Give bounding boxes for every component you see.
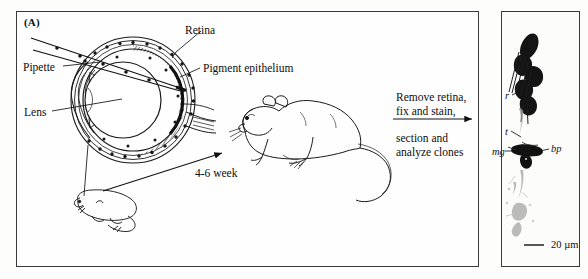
micrograph-label-bipolar-cell: bp [551,143,562,154]
scale-bar-unit: µm [564,239,578,250]
micrograph-label-rods: r [505,90,509,101]
scale-bar-value: 20 [551,239,562,250]
micrograph-label-terminal: t [505,126,508,137]
scale-bar-label: 20 µm [551,239,578,250]
figure-container: (A) [0,0,588,279]
micrograph-label-mueller-glia: mg [492,146,505,157]
panel-b-artwork [0,0,588,279]
micrograph-stained-clone-icon [502,12,579,266]
